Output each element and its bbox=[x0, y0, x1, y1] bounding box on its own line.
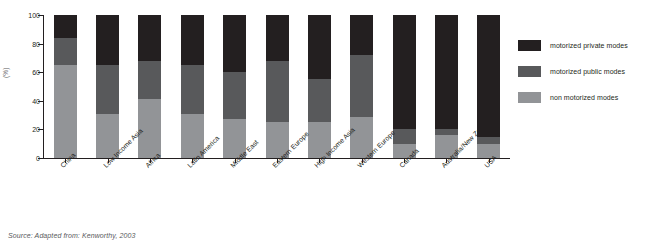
bar-segment-motorized-public-modes bbox=[54, 38, 77, 65]
bar-china[interactable] bbox=[54, 15, 77, 158]
y-axis-title: (%) bbox=[2, 68, 9, 78]
x-axis-tick-mark bbox=[277, 159, 278, 163]
x-axis-tick-mark bbox=[65, 159, 66, 163]
bar-segment-motorized-public-modes bbox=[223, 72, 246, 119]
bar-segment-motorized-public-modes bbox=[96, 65, 119, 114]
y-axis-tick-mark bbox=[38, 72, 43, 73]
bar-segment-motorized-public-modes bbox=[350, 55, 373, 116]
y-axis-tick-mark bbox=[38, 129, 43, 130]
legend-label: motorized private modes bbox=[550, 42, 628, 49]
y-axis-tick-mark bbox=[38, 158, 43, 159]
bar-segment-motorized-private-modes bbox=[54, 15, 77, 38]
bar-segment-motorized-public-modes bbox=[138, 61, 161, 100]
bar-latin-america[interactable] bbox=[181, 15, 204, 158]
bar-segment-motorized-private-modes bbox=[435, 15, 458, 129]
x-axis-tick-labels: ChinaLow Income AsiaAfricaLatin AmericaM… bbox=[0, 164, 520, 224]
legend-swatch-icon bbox=[518, 92, 541, 103]
x-axis-tick-mark bbox=[235, 159, 236, 163]
chart-page: (%) 020406080100 ChinaLow Income AsiaAfr… bbox=[0, 0, 653, 249]
bar-segment-motorized-private-modes bbox=[96, 15, 119, 65]
bar-segment-motorized-public-modes bbox=[393, 129, 416, 143]
x-axis-tick-mark bbox=[489, 159, 490, 163]
x-axis-tick-mark bbox=[192, 159, 193, 163]
y-axis-tick-labels: 020406080100 bbox=[14, 15, 40, 158]
bar-western-europe[interactable] bbox=[350, 15, 373, 158]
bar-middle-east[interactable] bbox=[223, 15, 246, 158]
bar-australia-new-zealand[interactable] bbox=[435, 15, 458, 158]
legend-label: non motorized modes bbox=[550, 94, 618, 101]
bar-low-income-asia[interactable] bbox=[96, 15, 119, 158]
y-axis-tick-mark bbox=[38, 15, 43, 16]
x-axis-tick-mark bbox=[362, 159, 363, 163]
legend-swatch-icon bbox=[518, 40, 541, 51]
legend-item[interactable]: motorized public modes bbox=[518, 62, 653, 80]
bar-segment-motorized-private-modes bbox=[266, 15, 289, 61]
x-axis-tick-mark bbox=[108, 159, 109, 163]
bar-segment-motorized-public-modes bbox=[266, 61, 289, 122]
source-note: Source: Adapted from: Kenworthy, 2003 bbox=[8, 232, 135, 239]
bar-segment-motorized-private-modes bbox=[393, 15, 416, 129]
bar-segment-motorized-private-modes bbox=[308, 15, 331, 79]
bar-segment-motorized-private-modes bbox=[138, 15, 161, 61]
chart-legend: motorized private modesmotorized public … bbox=[518, 36, 653, 114]
bar-canada[interactable] bbox=[393, 15, 416, 158]
bar-segment-non-motorized-modes bbox=[54, 65, 77, 158]
legend-item[interactable]: motorized private modes bbox=[518, 36, 653, 54]
x-axis-tick-mark bbox=[404, 159, 405, 163]
x-axis-tick-mark bbox=[446, 159, 447, 163]
bar-segment-motorized-private-modes bbox=[181, 15, 204, 65]
legend-item[interactable]: non motorized modes bbox=[518, 88, 653, 106]
legend-label: motorized public modes bbox=[550, 68, 625, 75]
y-axis-tick-mark bbox=[38, 44, 43, 45]
bar-segment-motorized-public-modes bbox=[435, 129, 458, 135]
bar-africa[interactable] bbox=[138, 15, 161, 158]
bar-segment-motorized-public-modes bbox=[308, 79, 331, 122]
legend-swatch-icon bbox=[518, 66, 541, 77]
bar-segment-motorized-private-modes bbox=[223, 15, 246, 72]
bar-segment-motorized-public-modes bbox=[477, 137, 500, 144]
plot-area: (%) 020406080100 ChinaLow Income AsiaAfr… bbox=[0, 0, 520, 170]
x-axis-tick-mark bbox=[150, 159, 151, 163]
x-axis-tick-mark bbox=[319, 159, 320, 163]
bar-segment-motorized-public-modes bbox=[181, 65, 204, 114]
bar-eastern-europe[interactable] bbox=[266, 15, 289, 158]
bars-container bbox=[44, 15, 510, 158]
bar-segment-non-motorized-modes bbox=[477, 144, 500, 158]
y-axis-tick-mark bbox=[38, 101, 43, 102]
bar-usa[interactable] bbox=[477, 15, 500, 158]
bar-segment-motorized-private-modes bbox=[350, 15, 373, 55]
bar-segment-non-motorized-modes bbox=[138, 99, 161, 158]
bar-high-income-asia[interactable] bbox=[308, 15, 331, 158]
